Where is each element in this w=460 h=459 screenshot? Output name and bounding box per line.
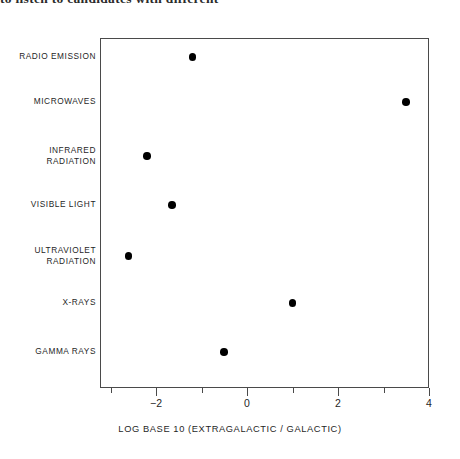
data-point <box>143 152 151 160</box>
x-tick-minor <box>202 388 203 393</box>
data-point <box>289 299 297 307</box>
category-label: ULTRAVIOLET RADIATION <box>0 245 96 268</box>
scatter-chart: RADIO EMISSIONMICROWAVESINFRARED RADIATI… <box>0 0 460 459</box>
data-point <box>168 201 176 209</box>
data-point <box>189 53 197 61</box>
x-tick-major <box>247 388 248 396</box>
x-tick-major <box>156 388 157 396</box>
x-tick-label: −2 <box>150 397 162 409</box>
plot-frame <box>100 38 429 388</box>
category-label: GAMMA RAYS <box>0 346 96 358</box>
x-tick-minor <box>293 388 294 393</box>
category-label: VISIBLE LIGHT <box>0 199 96 211</box>
x-tick-major <box>338 388 339 396</box>
data-point <box>220 348 228 356</box>
x-tick-minor <box>384 388 385 393</box>
data-point <box>402 98 410 106</box>
category-label: X-RAYS <box>0 297 96 309</box>
x-axis-title: LOG BASE 10 (EXTRAGALACTIC / GALACTIC) <box>0 424 460 434</box>
x-tick-label: 0 <box>244 397 250 409</box>
category-label: MICROWAVES <box>0 96 96 108</box>
x-tick-label: 2 <box>335 397 341 409</box>
category-label: INFRARED RADIATION <box>0 145 96 168</box>
category-label: RADIO EMISSION <box>0 51 96 63</box>
x-tick-minor <box>111 388 112 393</box>
x-tick-major <box>429 388 430 396</box>
x-tick-label: 4 <box>426 397 432 409</box>
